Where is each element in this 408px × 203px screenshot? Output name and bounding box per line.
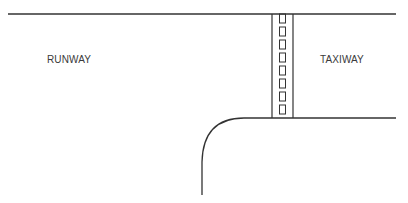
- airport-diagram: [0, 0, 408, 203]
- hold-short-marking: [272, 14, 293, 118]
- hold-dash-box: [280, 14, 286, 23]
- hold-dash-box: [280, 92, 286, 101]
- hold-dash-box: [280, 105, 286, 114]
- taxiway-label: TAXIWAY: [320, 54, 364, 65]
- hold-dash-box: [280, 66, 286, 75]
- curved-edge-fillet: [202, 118, 246, 195]
- hold-dash-box: [280, 79, 286, 88]
- hold-dash-box: [280, 40, 286, 49]
- hold-dash-box: [280, 53, 286, 62]
- runway-label: RUNWAY: [47, 54, 91, 65]
- hold-dash-box: [280, 27, 286, 36]
